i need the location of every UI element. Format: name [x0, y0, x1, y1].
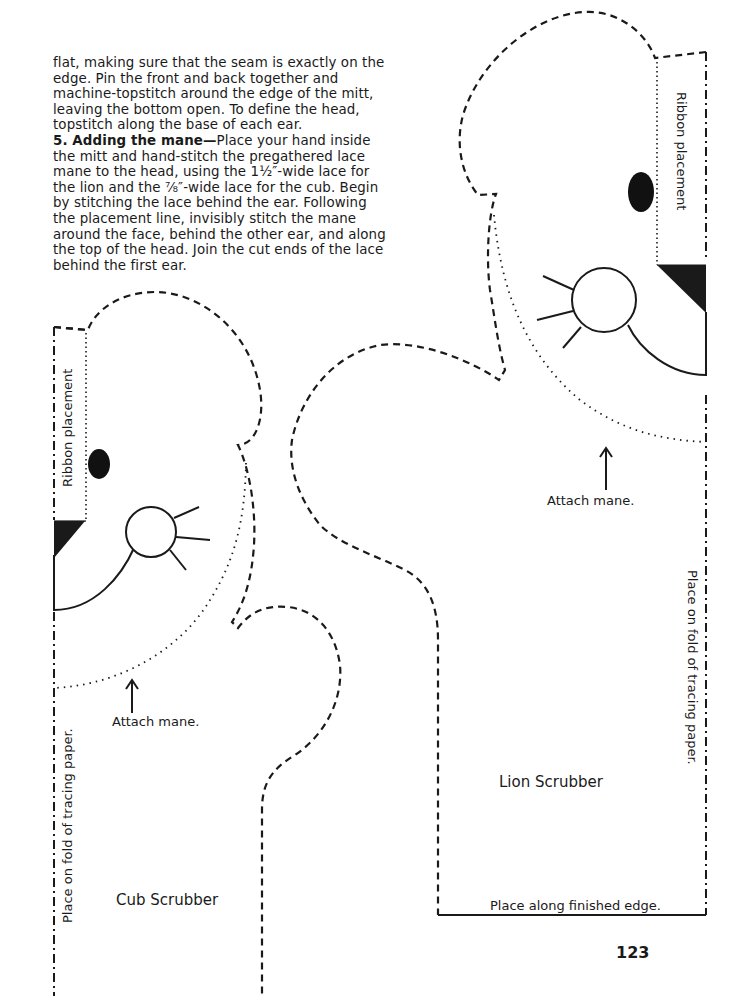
cub-ribbon-label: Ribbon placement	[60, 369, 75, 487]
cub-fold-label: Place on fold of tracing paper.	[60, 728, 75, 923]
pattern-drawing: Ribbon placement Attach mane. Place on f…	[0, 0, 730, 996]
lion-ribbon-label: Ribbon placement	[674, 92, 689, 210]
cub-nose	[126, 507, 176, 557]
lion-ribbon-corner	[657, 265, 706, 313]
lion-arrow-icon	[600, 448, 612, 490]
cub-eye	[88, 449, 110, 479]
lion-nose	[572, 268, 636, 332]
cub-mane-label: Attach mane.	[112, 714, 199, 729]
lion-title: Lion Scrubber	[499, 773, 604, 791]
lion-eye	[628, 172, 654, 212]
cub-arrow-icon	[126, 680, 138, 713]
lion-fold-label: Place on fold of tracing paper.	[685, 570, 700, 765]
lion-chin	[628, 312, 706, 375]
lion-edge-label: Place along finished edge.	[490, 898, 661, 913]
cub-mane-line	[54, 463, 246, 688]
cub-chin	[54, 548, 134, 610]
cub-ribbon-corner	[54, 521, 85, 558]
lion-mane-label: Attach mane.	[547, 493, 634, 508]
cub-title: Cub Scrubber	[116, 891, 219, 909]
page-number: 123	[616, 943, 649, 962]
